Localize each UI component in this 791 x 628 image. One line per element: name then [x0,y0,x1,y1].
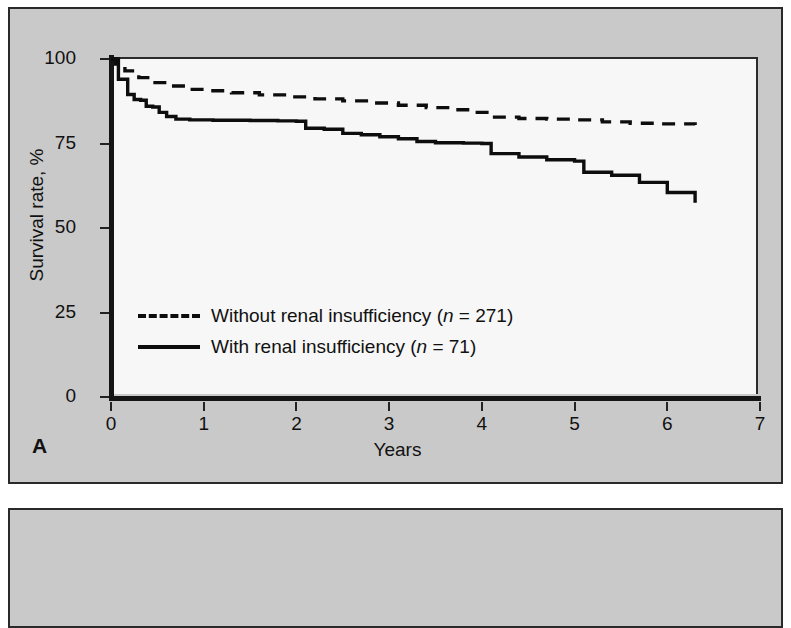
y-axis-title: Survival rate, % [26,125,48,305]
curve-with-renal-insufficiency [111,59,695,203]
curve-without-renal-insufficiency [111,59,695,125]
chart-legend: Without renal insufficiency (n = 271) Wi… [138,305,513,358]
survival-curves [10,9,785,486]
x-axis-title: Years [10,439,785,461]
legend-label-with-renal-insufficiency: With renal insufficiency (n = 71) [211,336,476,358]
legend-item-with-renal-insufficiency: With renal insufficiency (n = 71) [138,336,513,358]
figure-panel-b [8,508,783,628]
figure-panel-a: 0255075100 01234567 Survival rate, % Yea… [8,7,783,484]
legend-item-without-renal-insufficiency: Without renal insufficiency (n = 271) [138,305,513,327]
legend-label-without-renal-insufficiency: Without renal insufficiency (n = 271) [211,305,513,327]
legend-swatch-dashed-icon [138,314,200,318]
legend-swatch-solid-icon [138,345,200,349]
panel-label-a: A [32,434,48,458]
